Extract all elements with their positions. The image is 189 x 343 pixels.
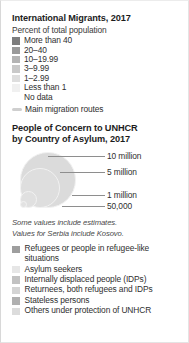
circle-label-5-million: 5 million [107, 168, 137, 177]
legend-item[interactable]: Returnees, both refugees and IDPs [12, 285, 180, 295]
map-legend-panel: International Migrants, 2017 Percent of … [0, 0, 189, 343]
legend-item-label: Others under protection of UNHCR [25, 306, 152, 316]
color-swatch-icon [12, 84, 20, 91]
color-swatch-icon [12, 47, 20, 54]
color-swatch-icon [12, 246, 20, 253]
migrants-section-title: International Migrants, 2017 [12, 13, 180, 24]
circle-label-1-million: 1 million [107, 191, 137, 200]
legend-content: International Migrants, 2017 Percent of … [12, 13, 180, 317]
note-line: Some values include estimates. [12, 218, 180, 227]
color-swatch-icon [12, 308, 20, 315]
proportional-circle-legend: 10 million 5 million 1 million 50,000 [12, 150, 180, 216]
legend-item-label: No data [24, 93, 53, 102]
color-swatch-icon [12, 287, 20, 294]
legend-item-migration-routes[interactable]: Main migration routes [12, 104, 180, 114]
color-swatch-icon [12, 65, 20, 72]
legend-item-label: Stateless persons [25, 296, 90, 306]
note-line: Values for Serbia include Kosovo. [12, 229, 180, 238]
circle-label-50000: 50,000 [107, 202, 132, 211]
color-swatch-icon [12, 94, 20, 101]
circle-label-10-million: 10 million [107, 152, 141, 161]
legend-item[interactable]: No data [12, 93, 180, 102]
legend-item-label: Main migration routes [25, 105, 103, 114]
leader-line [72, 195, 105, 196]
route-line-icon [12, 108, 22, 111]
leader-line [60, 172, 105, 173]
legend-item-label: Refugees or people in refugee-like situa… [25, 244, 181, 264]
migrants-section-subtitle: Percent of total population [12, 25, 180, 35]
color-swatch-icon [12, 276, 20, 283]
legend-item-label: Internally displaced people (IDPs) [25, 275, 147, 285]
color-swatch-icon [12, 75, 20, 82]
color-swatch-icon [12, 56, 20, 63]
color-swatch-icon [12, 266, 20, 273]
unhcr-section-title-line1: People of Concern to UNHCR [12, 123, 180, 134]
legend-item[interactable]: Refugees or people in refugee-like situa… [12, 244, 180, 264]
unhcr-legend-section: People of Concern to UNHCR by Country of… [12, 123, 180, 316]
legend-item[interactable]: Asylum seekers [12, 265, 180, 275]
color-swatch-icon [12, 297, 20, 304]
migrants-class-list: More than 40 20–40 10–19.99 3–9.99 1–2.9… [12, 36, 180, 102]
unhcr-category-list: Refugees or people in refugee-like situa… [12, 244, 180, 316]
legend-item-label: Returnees, both refugees and IDPs [25, 285, 153, 295]
legend-item[interactable]: Internally displaced people (IDPs) [12, 275, 180, 285]
legend-item-label: Asylum seekers [25, 265, 83, 275]
leader-line [62, 206, 105, 207]
migrants-legend-section: International Migrants, 2017 Percent of … [12, 13, 180, 114]
legend-item[interactable]: Stateless persons [12, 296, 180, 306]
unhcr-section-title-line2: by Country of Asylum, 2017 [12, 134, 180, 145]
leader-line [48, 156, 105, 157]
color-swatch-icon [12, 37, 20, 44]
legend-item[interactable]: Others under protection of UNHCR [12, 306, 180, 316]
legend-notes: Some values include estimates. Values fo… [12, 218, 180, 238]
